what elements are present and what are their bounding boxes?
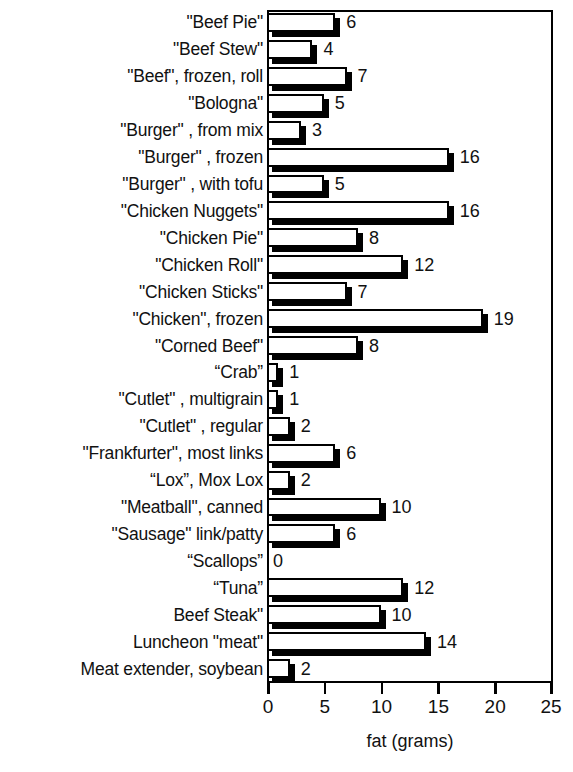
category-label: "Bologna" <box>0 94 263 113</box>
category-label: "Frankfurter", most links <box>0 444 263 463</box>
x-axis-tick-label: 0 <box>246 696 290 718</box>
scan-artifact-strip <box>200 0 500 5</box>
category-label: “Tuna” <box>0 579 263 598</box>
category-label: "Cutlet" , regular <box>0 417 263 436</box>
x-axis-tick-label: 10 <box>360 696 404 718</box>
category-label: "Chicken Nuggets" <box>0 202 263 221</box>
category-label: "Cutlet" , multigrain <box>0 390 263 409</box>
x-axis-tick-label: 20 <box>473 696 517 718</box>
category-label: “Lox”, Mox Lox <box>0 471 263 490</box>
category-label: "Burger" , frozen <box>0 148 263 167</box>
category-label: "Beef Pie" <box>0 13 263 32</box>
category-label: "Beef", frozen, roll <box>0 67 263 86</box>
x-axis-title: fat (grams) <box>267 731 553 752</box>
category-label: “Scallops” <box>0 552 263 571</box>
category-label: "Chicken Pie" <box>0 229 263 248</box>
category-label: "Burger" , with tofu <box>0 175 263 194</box>
fat-grams-bar-chart: "Beef Pie""Beef Stew""Beef", frozen, rol… <box>0 0 573 772</box>
x-axis-tick-label: 25 <box>529 696 573 718</box>
category-label: Luncheon "meat" <box>0 633 263 652</box>
x-axis-tick <box>324 683 327 694</box>
category-label: "Chicken", frozen <box>0 310 263 329</box>
category-label: "Corned Beef" <box>0 337 263 356</box>
plot-area-frame <box>267 10 553 683</box>
category-label: "Sausage" link/patty <box>0 525 263 544</box>
category-label: "Chicken Roll" <box>0 256 263 275</box>
x-axis-tick <box>437 683 440 694</box>
x-axis: 0510152025 <box>267 683 553 684</box>
x-axis-tick <box>494 683 497 694</box>
category-label: "Beef Stew" <box>0 40 263 59</box>
x-axis-tick-label: 5 <box>303 696 347 718</box>
category-axis-labels: "Beef Pie""Beef Stew""Beef", frozen, rol… <box>0 10 263 683</box>
category-label: Meat extender, soybean <box>0 660 263 679</box>
category-label: "Burger" , from mix <box>0 121 263 140</box>
x-axis-tick <box>550 683 553 694</box>
x-axis-tick <box>381 683 384 694</box>
x-axis-tick <box>267 683 270 694</box>
x-axis-tick-label: 15 <box>416 696 460 718</box>
category-label: Beef Steak" <box>0 606 263 625</box>
category-label: "Chicken Sticks" <box>0 283 263 302</box>
category-label: “Crab” <box>0 363 263 382</box>
category-label: "Meatball", canned <box>0 498 263 517</box>
